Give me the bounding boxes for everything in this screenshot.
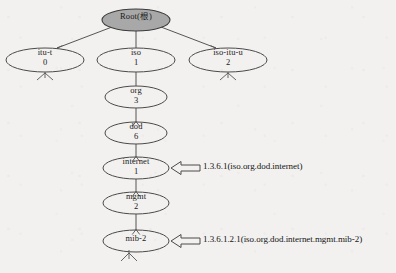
node-org[interactable] <box>105 86 167 108</box>
node-root[interactable] <box>102 9 170 31</box>
annotation-internet-oid: 1.3.6.1(iso.org.dod.internet) <box>203 161 302 171</box>
node-itu-t[interactable] <box>6 48 84 72</box>
node-mib-2[interactable] <box>103 230 169 252</box>
edge-root-iso-itu-u <box>161 27 216 48</box>
annotation-mib2-oid: 1.3.6.1.2.1(iso.org.dod.internet.mgmt.mi… <box>203 234 362 244</box>
callout-arrow-group <box>171 162 200 248</box>
callout-arrow-internet <box>171 162 200 175</box>
node-iso-itu-u[interactable] <box>189 48 267 72</box>
oid-tree-graphic <box>0 0 396 273</box>
diagram-canvas: Root(根) itu-t 0 iso 1 iso-itu-u 2 org 3 … <box>0 0 396 273</box>
node-internet[interactable] <box>103 157 169 179</box>
edge-root-itu-t <box>57 27 112 48</box>
node-iso[interactable] <box>97 48 175 72</box>
node-mgmt[interactable] <box>103 192 169 214</box>
node-dod[interactable] <box>105 122 167 144</box>
callout-arrow-mib-2 <box>171 235 200 248</box>
